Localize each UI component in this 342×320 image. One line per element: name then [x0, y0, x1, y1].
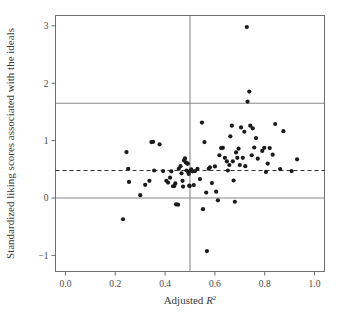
data-point	[205, 249, 209, 253]
data-point	[204, 190, 208, 194]
data-point	[183, 156, 187, 160]
data-point	[245, 100, 249, 104]
data-point	[138, 193, 142, 197]
y-tick-label: 0	[44, 193, 49, 203]
data-point	[168, 176, 172, 180]
data-point	[225, 159, 229, 163]
x-tick-label: 0.4	[159, 279, 171, 289]
plot-canvas: 0.00.20.40.60.81.0−10123Adjusted R2Stand…	[0, 0, 342, 320]
y-tick-label: 1	[44, 136, 49, 146]
data-point	[231, 159, 235, 163]
data-point	[186, 161, 190, 165]
data-point	[213, 164, 217, 168]
data-point	[242, 130, 246, 134]
data-point	[201, 207, 205, 211]
x-tick-label: 0.0	[60, 279, 72, 289]
data-point	[271, 153, 275, 157]
data-point	[236, 147, 240, 151]
data-point	[192, 183, 196, 187]
data-point	[251, 126, 255, 130]
data-point	[124, 150, 128, 154]
data-point	[230, 124, 234, 128]
data-point	[273, 122, 277, 126]
data-point	[126, 167, 130, 171]
data-point	[228, 134, 232, 138]
data-point	[295, 157, 299, 161]
data-point	[250, 153, 254, 157]
data-point	[161, 169, 165, 173]
data-point	[147, 179, 151, 183]
data-point	[195, 167, 199, 171]
data-point	[198, 177, 202, 181]
data-point	[121, 217, 125, 221]
y-tick-label: 2	[44, 79, 49, 89]
data-point	[158, 142, 162, 146]
data-point	[241, 156, 245, 160]
scatter-plot-figure: 0.00.20.40.60.81.0−10123Adjusted R2Stand…	[0, 0, 342, 320]
data-point	[268, 146, 272, 150]
data-point	[239, 125, 243, 129]
data-point	[152, 168, 156, 172]
data-point	[180, 179, 184, 183]
data-point	[210, 181, 214, 185]
data-point	[252, 145, 256, 149]
x-tick-label: 0.6	[209, 279, 221, 289]
data-point	[247, 89, 251, 93]
data-point	[281, 129, 285, 133]
data-point	[262, 146, 266, 150]
data-point	[254, 136, 258, 140]
data-point	[238, 163, 242, 167]
data-point	[169, 169, 173, 173]
data-point	[216, 198, 220, 202]
data-point	[256, 157, 260, 161]
data-point	[202, 140, 206, 144]
data-point	[221, 146, 225, 150]
data-point	[266, 161, 270, 165]
data-point-group	[121, 25, 299, 253]
data-point	[214, 190, 218, 194]
data-point	[176, 203, 180, 207]
data-point	[264, 170, 268, 174]
data-point	[231, 178, 235, 182]
data-point	[290, 169, 294, 173]
data-point	[173, 181, 177, 185]
data-point	[200, 120, 204, 124]
data-point	[245, 25, 249, 29]
data-point	[235, 156, 239, 160]
y-axis-title: Standardized liking scores associated wi…	[4, 28, 16, 259]
x-tick-label: 0.8	[259, 279, 271, 289]
data-point	[233, 200, 237, 204]
data-point	[227, 163, 231, 167]
data-point	[217, 153, 221, 157]
data-point	[208, 165, 212, 169]
data-point	[226, 168, 230, 172]
data-point	[179, 171, 183, 175]
x-tick-label: 0.2	[109, 279, 121, 289]
y-tick-label: −1	[38, 251, 48, 261]
x-axis-title: Adjusted R2	[164, 294, 217, 306]
data-point	[127, 180, 131, 184]
data-point	[188, 184, 192, 188]
data-point	[178, 164, 182, 168]
y-tick-label: 3	[44, 21, 49, 31]
data-point	[181, 184, 185, 188]
data-point	[234, 150, 238, 154]
data-point	[243, 164, 247, 168]
x-tick-label: 1.0	[309, 279, 321, 289]
data-point	[166, 180, 170, 184]
data-point	[151, 140, 155, 144]
data-point	[278, 167, 282, 171]
data-point	[143, 183, 147, 187]
